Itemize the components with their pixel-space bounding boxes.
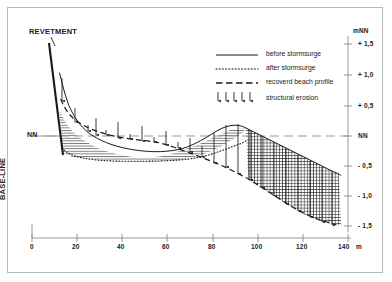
x-tick-label-3: 40 xyxy=(117,243,125,250)
figure-root: REVETMENT BASE-LINE NN mNN + 1,5 + 1,0 +… xyxy=(0,0,392,282)
legend-label-recovered-beach-profile: recoverd beach profile xyxy=(266,78,333,85)
x-tick-label-6: 100 xyxy=(251,243,262,250)
dashed-line-icon xyxy=(214,76,260,90)
revetment-label: REVETMENT xyxy=(29,27,77,36)
baseline-label: BASE-LINE xyxy=(0,158,7,200)
x-tick-label-1: 0 xyxy=(30,243,34,250)
y-tick-label-1: + 1,5 xyxy=(358,40,374,47)
legend-item-recovered-beach-profile: recoverd beach profile xyxy=(214,76,346,90)
legend-label-structural-erosion: structural erosion xyxy=(266,94,318,101)
legend-label-after-stormsurge: after stormsurge xyxy=(266,64,315,71)
beach-profile-chart xyxy=(0,0,392,282)
legend-label-before-stormsurge: before stormsurge xyxy=(266,50,321,57)
x-tick-label-8: 140 xyxy=(338,243,349,250)
legend-item-after-stormsurge: after stormsurge xyxy=(214,62,346,76)
solid-line-icon xyxy=(214,48,260,62)
down-arrows-icon xyxy=(214,90,260,106)
y-tick-label-2: + 1,0 xyxy=(358,71,374,78)
x-tick-label-4: 60 xyxy=(162,243,170,250)
x-axis-unit-label: m xyxy=(356,243,362,250)
revetment-leader xyxy=(51,37,55,46)
y-tick-label-7: - 1,5 xyxy=(358,222,372,229)
dotted-line-icon xyxy=(214,62,260,76)
legend-item-structural-erosion: structural erosion xyxy=(214,90,346,106)
x-tick-label-7: 120 xyxy=(296,243,307,250)
x-tick-label-5: 80 xyxy=(208,243,216,250)
y-axis-unit-label: mNN xyxy=(353,27,369,34)
legend: before stormsurge after stormsurge recov… xyxy=(214,48,346,106)
y-tick-label-5: - 0,5 xyxy=(358,162,372,169)
legend-item-before-stormsurge: before stormsurge xyxy=(214,48,346,62)
nn-left-label: NN xyxy=(27,131,38,138)
x-tick-label-2: 20 xyxy=(72,243,80,250)
y-tick-label-4: NN xyxy=(358,132,368,139)
lower-erosion-fill xyxy=(246,128,341,226)
y-tick-label-3: + 0,5 xyxy=(358,102,374,109)
y-tick-label-6: - 1,0 xyxy=(358,192,372,199)
